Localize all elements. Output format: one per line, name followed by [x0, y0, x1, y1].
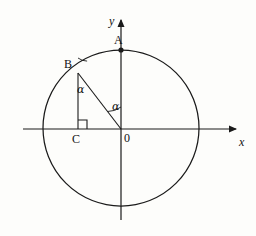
angle-label-alpha-at-b: α	[77, 84, 84, 95]
point-label-a: A	[114, 34, 123, 46]
point-label-b: B	[64, 58, 72, 70]
right-angle-marker-at-c	[78, 120, 87, 129]
point-label-c: C	[72, 133, 80, 145]
origin-label: 0	[124, 132, 130, 144]
geometry-figure: A B C 0 x y α α	[0, 0, 256, 236]
y-axis-label: y	[109, 15, 114, 27]
point-a-marker	[118, 47, 123, 52]
x-axis-label: x	[239, 136, 244, 148]
angle-label-alpha-at-o: α	[112, 101, 119, 112]
figure-canvas	[0, 0, 256, 236]
